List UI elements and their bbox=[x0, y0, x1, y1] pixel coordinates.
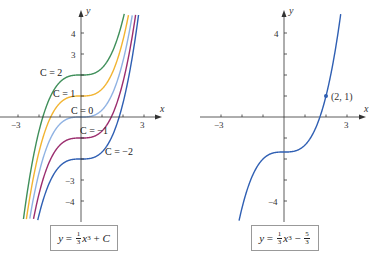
label-c2: C = 2 bbox=[40, 67, 62, 78]
curve-c-2 bbox=[38, 15, 139, 220]
right-x-label: x bbox=[363, 103, 369, 114]
left-xtick-neg3: −3 bbox=[11, 120, 21, 130]
left-x-arrow-icon bbox=[155, 115, 162, 120]
left-ytick-neg3: −3 bbox=[65, 176, 75, 186]
frac-den: 3 bbox=[278, 239, 282, 246]
caption-eq: = bbox=[264, 232, 276, 244]
left-plot: x y −3 3 4 3 −3 −4 C = 2 C = 1 C = 0 C =… bbox=[0, 5, 165, 222]
right-curves bbox=[239, 14, 341, 220]
caption-const-fraction: 53 bbox=[304, 231, 310, 246]
right-xtick-neg3: −3 bbox=[214, 120, 224, 130]
right-x-arrow-icon bbox=[359, 115, 366, 120]
left-caption: y = 13 x3 + C bbox=[50, 225, 118, 251]
right-xtick-3: 3 bbox=[344, 120, 349, 130]
point-label: (2, 1) bbox=[331, 91, 353, 103]
frac-den: 3 bbox=[77, 239, 81, 246]
left-ytick-4: 4 bbox=[71, 29, 76, 39]
right-caption: y = 13 x3 − 53 bbox=[251, 225, 319, 251]
curve-particular-solution bbox=[239, 14, 341, 220]
right-y-arrow-icon bbox=[282, 10, 287, 17]
caption-op: − bbox=[292, 232, 304, 244]
right-y-label: y bbox=[288, 5, 294, 16]
curve-c2 bbox=[23, 14, 124, 219]
point-marker bbox=[324, 94, 328, 98]
caption-fraction: 13 bbox=[76, 231, 82, 246]
caption-fraction: 13 bbox=[277, 231, 283, 246]
left-ytick-neg4: −4 bbox=[65, 197, 75, 207]
left-y-arrow-icon bbox=[79, 10, 84, 17]
left-ytick-3: 3 bbox=[71, 50, 76, 60]
label-cm1: C = −1 bbox=[80, 125, 108, 136]
left-xtick-3: 3 bbox=[140, 120, 145, 130]
label-cm2: C = −2 bbox=[105, 146, 133, 157]
label-c0: C = 0 bbox=[71, 105, 93, 116]
label-c1: C = 1 bbox=[53, 88, 75, 99]
left-y-label: y bbox=[85, 5, 91, 16]
plots-canvas: x y −3 3 4 3 −3 −4 C = 2 C = 1 C = 0 C =… bbox=[0, 0, 372, 257]
right-ytick-4: 4 bbox=[274, 29, 279, 39]
caption-op: + bbox=[91, 232, 103, 244]
right-plot: (2, 1) x y −3 3 4 −4 bbox=[200, 5, 369, 222]
right-ytick-neg4: −4 bbox=[268, 197, 278, 207]
caption-eq: = bbox=[63, 232, 75, 244]
left-x-label: x bbox=[159, 103, 165, 114]
frac-den: 3 bbox=[305, 239, 309, 246]
caption-c: C bbox=[102, 232, 109, 244]
